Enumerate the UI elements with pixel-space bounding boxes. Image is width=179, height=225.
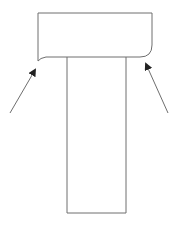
left-arrow (10, 70, 35, 113)
cap-outline (38, 13, 152, 61)
stem-outline (67, 57, 126, 213)
diagram-canvas (0, 0, 179, 225)
t-shape-diagram (0, 0, 179, 225)
right-arrow (146, 64, 168, 113)
